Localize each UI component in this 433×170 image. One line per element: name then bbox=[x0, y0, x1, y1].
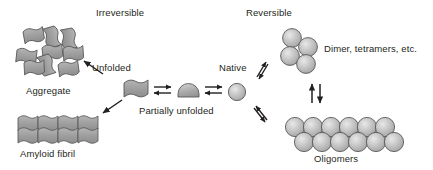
sphere-cluster-icon bbox=[281, 29, 318, 74]
arrow-native-to-dimer bbox=[257, 62, 268, 79]
wavy-ribbon-icon bbox=[124, 80, 148, 97]
heading-irreversible: Irreversible bbox=[96, 8, 144, 18]
arrow-native-to-oligomers bbox=[254, 106, 267, 122]
disordered-ribbon-cluster-icon bbox=[16, 25, 84, 77]
label-unfolded: Unfolded bbox=[92, 63, 131, 73]
heading-reversible: Reversible bbox=[246, 8, 292, 18]
label-amyloid-fibril: Amyloid fibril bbox=[20, 149, 75, 159]
arrow-dimer-to-oligomers bbox=[312, 84, 320, 103]
label-aggregate: Aggregate bbox=[26, 86, 71, 96]
sphere-double-row-icon bbox=[285, 117, 403, 151]
label-partially-unfolded: Partially unfolded bbox=[139, 106, 214, 116]
dome-shape-icon bbox=[178, 84, 199, 98]
arrow-unfolded-partially-unfolded bbox=[154, 87, 171, 93]
label-native: Native bbox=[219, 63, 247, 73]
label-oligomers: Oligomers bbox=[314, 154, 358, 164]
ordered-ribbon-stack-icon bbox=[18, 116, 98, 144]
protein-aggregation-diagram: Irreversible Reversible Aggregate Amyloi… bbox=[0, 0, 433, 170]
label-dimer-tetramers: Dimer, tetramers, etc. bbox=[324, 44, 417, 54]
arrow-unfolded-to-amyloid-fibril bbox=[103, 100, 122, 113]
sphere-icon bbox=[228, 83, 245, 100]
arrow-partially-unfolded-native bbox=[205, 87, 222, 93]
